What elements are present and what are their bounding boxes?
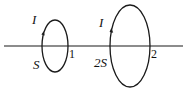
loop-2-number-label: 2 [151, 48, 157, 60]
loop-2-current-label: I [99, 16, 103, 29]
loop-1-current-label: I [32, 13, 36, 26]
loop-2-area-label: 2S [94, 56, 107, 69]
figure-canvas [0, 0, 188, 91]
loop-2-current-arrow-icon [110, 28, 114, 33]
physics-figure: I S 1 I 2S 2 [0, 0, 188, 91]
loop-1-area-label: S [33, 58, 40, 71]
loop-1-number-label: 1 [69, 48, 75, 60]
